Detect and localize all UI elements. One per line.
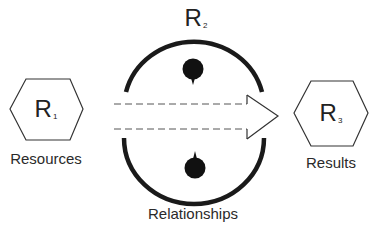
top-pin-icon [183, 59, 204, 86]
r1-symbol: R1 [35, 95, 58, 123]
flow-arrow [114, 95, 278, 139]
bottom-pin-icon [185, 151, 206, 179]
r3-symbol: R3 [320, 99, 343, 127]
relationships-label: Relationships [148, 205, 238, 222]
r2-symbol: R2 [185, 4, 208, 32]
resources-label: Resources [10, 150, 82, 167]
results-label: Results [306, 154, 356, 171]
